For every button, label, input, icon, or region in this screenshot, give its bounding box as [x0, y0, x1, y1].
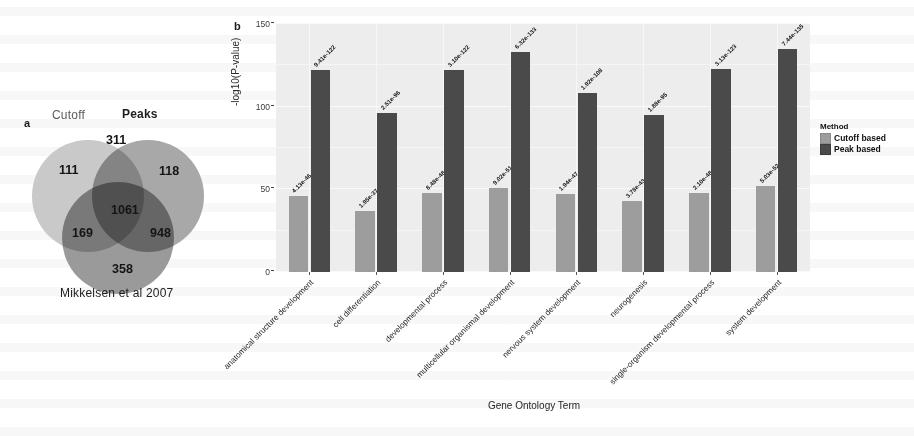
x-tick-mark	[643, 272, 644, 275]
figure-root: a Cutoff Peaks Mikkelsen et al 2007 111 …	[0, 0, 914, 436]
bar-group: 2.10e-483.13e-123	[689, 24, 731, 272]
bar-group: 5.03e-527.44e-135	[756, 24, 798, 272]
y-axis-tick-100: 100	[234, 102, 270, 112]
x-tick-mark	[576, 272, 577, 275]
bar-value-label: 1.92e-108	[580, 67, 604, 91]
bar-value-label: 2.10e-48	[692, 169, 714, 191]
bar-cutoff[interactable]	[689, 193, 709, 272]
venn-label-mikkelsen: Mikkelsen et al 2007	[60, 286, 173, 300]
x-axis-title: Gene Ontology Term	[234, 400, 834, 411]
bar-group: 8.48e-483.10e-122	[422, 24, 464, 272]
y-axis-tick-50: 50	[234, 184, 270, 194]
bar-cutoff[interactable]	[622, 201, 642, 272]
bar-cutoff[interactable]	[756, 186, 776, 272]
x-tick-mark	[510, 272, 511, 275]
bar-peak[interactable]	[578, 93, 598, 272]
bar-value-label: 9.02e-51	[491, 164, 513, 186]
y-axis-tick-150: 150	[234, 19, 270, 29]
panel-b-barchart: b -log10(P-value) 050100150 4.13e-469.41…	[234, 10, 914, 436]
x-tick-mark	[443, 272, 444, 275]
bar-peak[interactable]	[644, 115, 664, 272]
bar-cutoff[interactable]	[422, 193, 442, 272]
x-tick-mark	[777, 272, 778, 275]
bar-value-label: 2.51e-96	[380, 90, 402, 112]
bar-value-label: 7.44e-135	[780, 23, 804, 47]
panel-a-venn: a Cutoff Peaks Mikkelsen et al 2007 111 …	[0, 0, 250, 436]
y-tick-mark	[271, 187, 274, 188]
bar-value-label: 1.88e-95	[647, 91, 669, 113]
y-axis-tick-0: 0	[234, 267, 270, 277]
legend-swatch-cutoff	[820, 133, 831, 144]
venn-label-cutoff: Cutoff	[52, 108, 85, 122]
bar-peak[interactable]	[377, 113, 397, 272]
x-tick-mark	[309, 272, 310, 275]
plot-area: 4.13e-469.41e-1221.95e-372.51e-968.48e-4…	[276, 24, 810, 272]
y-tick-mark	[271, 22, 274, 23]
bar-peak[interactable]	[444, 70, 464, 272]
bar-peak[interactable]	[711, 69, 731, 272]
venn-label-peaks: Peaks	[122, 107, 158, 121]
bar-group: 1.95e-372.51e-96	[355, 24, 397, 272]
legend-title: Method	[820, 122, 912, 131]
bar-cutoff[interactable]	[355, 211, 375, 272]
legend: Method Cutoff basedPeak based	[820, 122, 912, 155]
bar-peak[interactable]	[311, 70, 331, 272]
bar-group: 1.94e-471.92e-108	[556, 24, 598, 272]
bar-value-label: 8.48e-48	[425, 169, 447, 191]
bar-group: 4.13e-469.41e-122	[289, 24, 331, 272]
venn-count-peaks-only: 118	[159, 164, 179, 178]
bar-value-label: 1.94e-47	[558, 171, 580, 193]
venn-count-mikkelsen-only: 358	[112, 262, 133, 276]
y-tick-mark	[271, 105, 274, 106]
venn-count-cutoff-mikkelsen: 169	[72, 226, 93, 240]
bar-cutoff[interactable]	[289, 196, 309, 272]
y-tick-mark	[271, 270, 274, 271]
bar-peak[interactable]	[511, 52, 531, 272]
bar-group: 9.02e-516.32e-133	[489, 24, 531, 272]
bar-value-label: 3.13e-123	[714, 43, 738, 67]
venn-count-peaks-mikkelsen: 948	[150, 226, 171, 240]
venn-count-all-three: 1061	[111, 203, 139, 217]
legend-entries: Cutoff basedPeak based	[820, 133, 912, 155]
bar-value-label: 6.32e-133	[513, 26, 537, 50]
bar-value-label: 3.78e-43	[625, 177, 647, 199]
bar-group: 3.78e-431.88e-95	[622, 24, 664, 272]
x-tick-mark	[710, 272, 711, 275]
bar-cutoff[interactable]	[556, 194, 576, 272]
bar-cutoff[interactable]	[489, 188, 509, 272]
legend-label: Peak based	[834, 144, 881, 155]
legend-entry[interactable]: Peak based	[820, 144, 912, 155]
x-tick-mark	[376, 272, 377, 275]
bar-value-label: 4.13e-46	[291, 172, 313, 194]
bar-value-label: 5.03e-52	[758, 162, 780, 184]
bar-value-label: 1.95e-37	[358, 187, 380, 209]
venn-count-cutoff-only: 111	[59, 163, 78, 177]
legend-label: Cutoff based	[834, 133, 886, 144]
bar-peak[interactable]	[778, 49, 798, 272]
y-axis-title: -log10(P-value)	[230, 38, 241, 106]
venn-count-cutoff-peaks: 311	[106, 133, 126, 147]
legend-entry[interactable]: Cutoff based	[820, 133, 912, 144]
panel-a-letter: a	[24, 117, 30, 129]
legend-swatch-peak	[820, 144, 831, 155]
